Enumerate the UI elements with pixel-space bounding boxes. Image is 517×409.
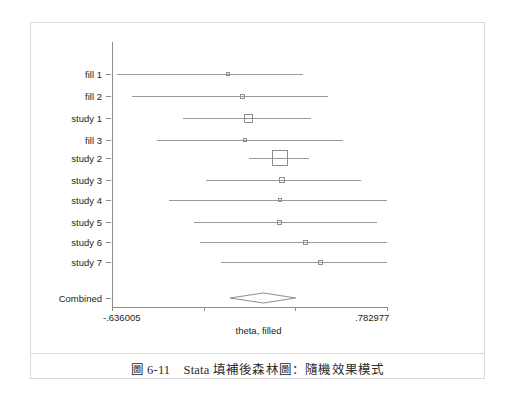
x-tick-1 [204,307,205,311]
effect-marker-study-5 [277,220,282,225]
study-label-study-3: study 3 [0,175,102,186]
effect-marker-study-1 [244,114,253,123]
effect-marker-fill-2 [240,94,245,99]
y-tick-study-1 [106,118,111,119]
effect-marker-fill-1 [226,72,230,76]
x-axis-max-label: .782977 [355,312,389,323]
effect-marker-study-6 [303,240,308,245]
effect-marker-study-7 [318,260,323,265]
study-label-study-2: study 2 [0,153,102,164]
study-label-fill-2: fill 2 [0,91,102,102]
effect-marker-fill-3 [243,138,247,142]
study-label-study-6: study 6 [0,237,102,248]
ci-line-study-5 [194,222,376,223]
study-label-study-1: study 1 [0,113,102,124]
y-tick-study-3 [106,180,111,181]
x-tick-3 [387,307,388,311]
x-axis-min-label: -.636005 [103,312,141,323]
ci-line-fill-1 [117,74,303,75]
y-tick-study-6 [106,242,111,243]
study-label-combined: Combined [0,293,102,304]
x-axis-title: theta, filled [0,325,517,336]
ci-line-study-7 [221,262,387,263]
ci-line-fill-2 [132,96,328,97]
y-tick-fill-2 [106,96,111,97]
y-tick-study-7 [106,262,111,263]
x-tick-0 [112,307,113,311]
caption-divider [30,353,485,354]
study-label-study-5: study 5 [0,217,102,228]
x-tick-2 [295,307,296,311]
effect-marker-study-2 [272,150,288,166]
effect-marker-study-4 [278,198,282,202]
forest-plot: fill 1fill 2study 1fill 3study 2study 3s… [0,0,517,353]
ci-line-study-6 [200,242,387,243]
y-tick-fill-3 [106,140,111,141]
y-tick-study-2 [106,158,111,159]
combined-diamond [228,291,298,305]
y-tick-study-4 [106,200,111,201]
y-tick-study-5 [106,222,111,223]
effect-marker-study-3 [279,177,285,183]
y-tick-combined [106,298,111,299]
study-label-study-4: study 4 [0,195,102,206]
x-axis-line [112,307,387,308]
study-label-fill-3: fill 3 [0,135,102,146]
y-axis-line [112,42,113,307]
figure-caption: 圖 6-11 Stata 填補後森林圖：隨機效果模式 [30,356,485,380]
study-label-study-7: study 7 [0,257,102,268]
study-label-fill-1: fill 1 [0,69,102,80]
y-tick-fill-1 [106,74,111,75]
ci-line-fill-3 [157,140,343,141]
